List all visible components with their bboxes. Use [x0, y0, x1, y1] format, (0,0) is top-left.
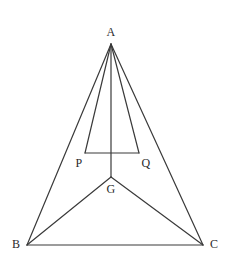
vertex-label-A: A [107, 26, 116, 38]
vertex-label-B: B [12, 238, 20, 250]
vertex-label-C: C [210, 238, 218, 250]
segment-AP [85, 44, 111, 153]
triangle-diagram-svg [0, 0, 234, 264]
segment-AQ [111, 44, 139, 153]
segment-AC [111, 44, 203, 245]
vertex-label-Q: Q [142, 157, 151, 169]
segment-AB [27, 44, 111, 245]
vertex-label-P: P [76, 157, 83, 169]
segment-GB [27, 177, 111, 245]
geometry-figure: A B C G P Q [0, 0, 234, 264]
vertex-label-G: G [107, 183, 116, 195]
segments-group [27, 44, 203, 245]
segment-GC [111, 177, 203, 245]
